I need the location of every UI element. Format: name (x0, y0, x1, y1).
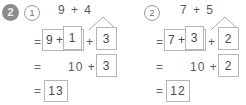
problem-2-answer-input[interactable]: 12 (166, 80, 190, 102)
problem-1-row1-equals: = (34, 35, 41, 49)
problem-2-index-badge: 2 (144, 5, 160, 21)
problem-1-row2-ten: 10 + (68, 60, 96, 74)
problem-2-row1-equals: = (156, 35, 163, 49)
problem-1-answer-input[interactable]: 13 (44, 80, 68, 102)
worksheet-sheet: 2 1 9 + 4 = 9 + 1 + 3 = 10 + 3 = 13 2 7 … (0, 0, 246, 105)
problem-2-row2-ten: 10 + (190, 60, 218, 74)
problem-1-row2-remainder-input[interactable]: 3 (96, 54, 117, 77)
problem-1-remainder-input[interactable]: 3 (96, 27, 117, 50)
problem-1: 1 9 + 4 = 9 + 1 + 3 = 10 + 3 = 13 (0, 0, 123, 105)
problem-1-row2-equals: = (34, 60, 41, 74)
problem-2-row2-equals: = (156, 60, 163, 74)
problem-2: 2 7 + 5 = 7 + 3 + 2 = 10 + 2 = 12 (123, 0, 246, 105)
problem-2-remainder-input[interactable]: 2 (218, 27, 239, 50)
problem-1-row3-equals: = (34, 84, 41, 98)
problem-2-row1-group-prefix: 7 + (168, 33, 185, 47)
problem-2-row1-plus: + (208, 35, 215, 49)
problem-1-row1-plus: + (86, 35, 93, 49)
problem-2-row2-remainder-input[interactable]: 2 (218, 54, 239, 77)
problem-1-make-ten-input[interactable]: 1 (63, 26, 82, 50)
problem-1-index-badge: 1 (24, 5, 40, 21)
problem-2-row3-equals: = (156, 84, 163, 98)
problem-1-row1-group-prefix: 9 + (46, 33, 63, 47)
problem-2-make-ten-input[interactable]: 3 (185, 26, 204, 50)
